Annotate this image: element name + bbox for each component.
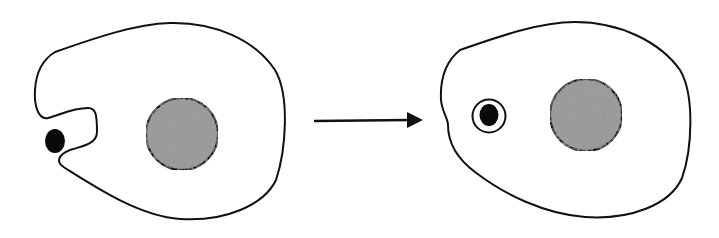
nucleus	[146, 98, 218, 170]
nucleus	[550, 79, 622, 151]
phagocytosis-diagram	[0, 0, 719, 238]
particle	[45, 129, 65, 153]
engulfed-particle	[480, 104, 499, 126]
cell-after	[441, 22, 691, 217]
cell-before	[35, 23, 285, 219]
arrow-right-icon	[314, 112, 423, 128]
diagram-canvas	[0, 0, 719, 238]
